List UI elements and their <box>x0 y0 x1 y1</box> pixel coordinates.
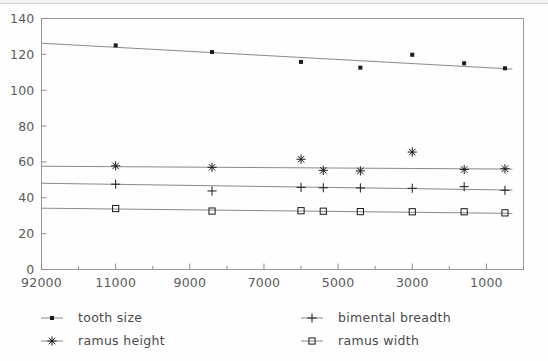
legend-marker-asterisk-icon <box>47 336 56 345</box>
legend-label: ramus height <box>78 333 165 348</box>
data-point <box>500 164 509 173</box>
scatter-chart: 020406080100120140 920001100090007000500… <box>0 0 548 361</box>
x-tick-label: 7000 <box>248 275 281 290</box>
data-point <box>207 186 216 195</box>
x-axis-labels: 920001100090007000500030001000 <box>21 275 503 290</box>
data-point <box>461 209 467 215</box>
data-point <box>408 184 417 193</box>
data-point <box>463 62 466 65</box>
data-point <box>211 51 214 54</box>
y-axis-ticks <box>42 19 47 270</box>
data-point <box>356 166 365 175</box>
x-axis-ticks <box>42 264 524 270</box>
data-point <box>296 155 305 164</box>
y-tick-label: 60 <box>18 154 34 169</box>
data-point <box>207 163 216 172</box>
chart-canvas: 020406080100120140 920001100090007000500… <box>0 0 548 361</box>
trend-line-ramus-height <box>42 166 513 169</box>
x-tick-label: 1000 <box>470 275 503 290</box>
data-point <box>411 53 414 56</box>
chart-legend: tooth sizebimental breadthramus heightra… <box>41 310 451 348</box>
legend-item-ramus-width: ramus width <box>301 333 419 348</box>
data-point <box>408 147 417 156</box>
y-tick-label: 120 <box>10 47 34 62</box>
x-tick-label: 5000 <box>322 275 355 290</box>
data-point <box>460 165 469 174</box>
y-tick-label: 140 <box>10 11 34 26</box>
legend-item-tooth-size: tooth size <box>41 310 142 325</box>
data-point <box>356 183 365 192</box>
data-point <box>319 183 328 192</box>
legend-item-bimental-breadth: bimental breadth <box>301 310 451 325</box>
data-point <box>296 183 305 192</box>
data-point <box>359 66 362 69</box>
x-tick-label: 3000 <box>396 275 429 290</box>
data-point <box>500 186 509 195</box>
y-axis-labels: 020406080100120140 <box>10 11 34 277</box>
x-tick-label: 11000 <box>95 275 136 290</box>
legend-label: tooth size <box>78 310 142 325</box>
legend-label: ramus width <box>338 333 419 348</box>
y-tick-label: 100 <box>10 83 34 98</box>
data-point <box>209 208 215 214</box>
series-ramus-height <box>111 147 510 175</box>
x-tick-label: 92000 <box>21 275 62 290</box>
legend-marker-plus-icon <box>307 313 316 322</box>
trend-line-tooth-size <box>42 43 513 69</box>
legend-item-ramus-height: ramus height <box>41 333 165 348</box>
y-tick-label: 40 <box>18 190 34 205</box>
x-tick-label: 9000 <box>173 275 206 290</box>
legend-label: bimental breadth <box>338 310 451 325</box>
data-point <box>319 166 328 175</box>
legend-marker-filled-square-icon <box>51 317 54 320</box>
y-tick-label: 20 <box>18 226 34 241</box>
data-markers <box>111 44 510 216</box>
y-tick-label: 80 <box>18 119 34 134</box>
trend-lines <box>42 43 513 213</box>
data-point <box>300 60 303 63</box>
data-point <box>111 180 120 189</box>
data-point <box>503 67 506 70</box>
data-point <box>114 44 117 47</box>
data-point <box>111 161 120 170</box>
